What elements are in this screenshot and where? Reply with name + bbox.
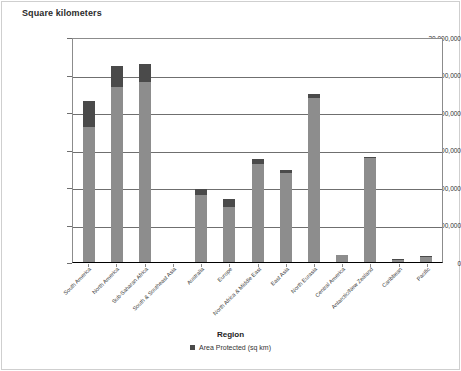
- bar-slot: [103, 39, 131, 262]
- x-axis-label-slot: North Africa & Middle East: [243, 264, 271, 326]
- bar-slot: [215, 39, 243, 262]
- bar-slot: [75, 39, 103, 262]
- bar[interactable]: [392, 259, 404, 262]
- legend-label-area-protected: Area Protected (sq km): [199, 344, 271, 351]
- x-axis-label-slot: Caribbean: [385, 264, 413, 326]
- bar-segment-total-area: [308, 98, 320, 262]
- bar[interactable]: [420, 256, 432, 262]
- bar[interactable]: [139, 64, 151, 262]
- x-axis-label-slot: Antarctic/New Zealand: [356, 264, 384, 326]
- bar-segment-total-area: [336, 255, 348, 262]
- bar-segment-total-area: [280, 173, 292, 262]
- bar-segment-total-area: [83, 127, 95, 262]
- bar-segment-area-protected: [223, 199, 235, 207]
- x-axis-label-slot: South America: [74, 264, 102, 326]
- chart-title: Square kilometers: [22, 8, 102, 18]
- x-axis-tick-label: Europe: [217, 266, 235, 284]
- plot-area: [72, 38, 443, 263]
- bar-segment-total-area: [252, 164, 264, 262]
- bar-slot: [412, 39, 440, 262]
- bar[interactable]: [252, 159, 264, 262]
- bar[interactable]: [308, 94, 320, 262]
- bar-segment-total-area: [420, 257, 432, 262]
- x-axis-label-slot: Pacific: [413, 264, 441, 326]
- bar[interactable]: [364, 157, 376, 262]
- bar-segment-total-area: [392, 260, 404, 262]
- bar-segment-total-area: [223, 207, 235, 262]
- bar[interactable]: [223, 199, 235, 262]
- bar-slot: [300, 39, 328, 262]
- bar-segment-area-protected: [139, 64, 151, 82]
- bar[interactable]: [195, 189, 207, 262]
- x-axis-labels: South AmericaNorth AmericaSub-Saharan Af…: [72, 264, 443, 326]
- bar-slot: [187, 39, 215, 262]
- x-axis-tick-label: Pacific: [415, 266, 432, 283]
- bar-segment-area-protected: [83, 101, 95, 127]
- x-axis-tick-label: Australia: [186, 266, 206, 286]
- bar-slot: [356, 39, 384, 262]
- bar[interactable]: [83, 101, 95, 262]
- x-axis-label-slot: South & Southeast Asia: [159, 264, 187, 326]
- bar-slot: [131, 39, 159, 262]
- bar[interactable]: [280, 170, 292, 262]
- x-axis-title: Region: [0, 330, 461, 339]
- x-axis-tick-label: East Asia: [269, 266, 290, 287]
- x-axis-label-slot: Australia: [187, 264, 215, 326]
- bar-slot: [384, 39, 412, 262]
- chart-legend: Area Protected (sq km): [0, 344, 461, 351]
- bar-slot: [328, 39, 356, 262]
- x-axis-label-slot: East Asia: [272, 264, 300, 326]
- bar-slot: [272, 39, 300, 262]
- bar-segment-total-area: [139, 82, 151, 262]
- bar-segment-total-area: [111, 87, 123, 263]
- bar[interactable]: [336, 255, 348, 263]
- bar-slot: [159, 39, 187, 262]
- bar-slot: [243, 39, 271, 262]
- bar[interactable]: [111, 66, 123, 263]
- bar-segment-area-protected: [111, 66, 123, 87]
- bar-series-group: [73, 39, 442, 262]
- legend-swatch-area-protected: [190, 345, 195, 350]
- bar-segment-total-area: [364, 158, 376, 262]
- bar-segment-total-area: [195, 195, 207, 262]
- x-axis-tick-label: Caribbean: [380, 266, 403, 289]
